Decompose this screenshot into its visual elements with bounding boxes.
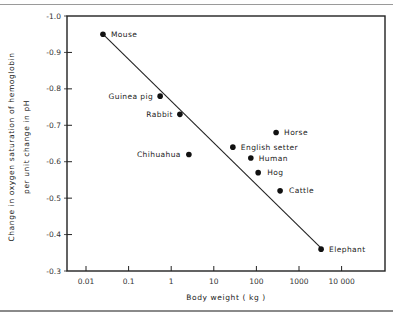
- point-label: Cattle: [289, 186, 314, 195]
- x-tick-label: 1000: [289, 277, 308, 286]
- point-label: Horse: [284, 128, 308, 137]
- point-marker: [157, 93, 163, 99]
- point-marker: [100, 31, 106, 37]
- x-tick-label: 0.1: [123, 277, 135, 286]
- point-label: Chihuahua: [137, 150, 181, 159]
- point-marker: [255, 170, 261, 176]
- y-tick-label: -0.9: [46, 48, 61, 57]
- point-marker: [318, 246, 324, 252]
- data-point: English setter: [230, 143, 298, 152]
- data-point: Human: [248, 154, 288, 163]
- point-label: Mouse: [111, 30, 137, 39]
- x-tick-label: 10: [209, 277, 219, 286]
- y-axis: -1.0-0.9-0.8-0.7-0.6-0.5-0.4-0.3: [46, 12, 72, 276]
- data-points: MouseGuinea pigRabbitChihuahuaEnglish se…: [100, 30, 365, 254]
- y-axis-label: Change in oxygen saturation of hemoglobi…: [7, 52, 31, 241]
- x-tick-label: 100: [249, 277, 264, 286]
- x-tick-label: 10 000: [328, 277, 354, 286]
- point-label: English setter: [241, 143, 299, 152]
- point-label: Hog: [267, 168, 283, 177]
- point-label: Human: [259, 154, 288, 163]
- y-tick-label: -0.4: [46, 230, 61, 239]
- point-label: Elephant: [329, 245, 365, 254]
- point-marker: [177, 112, 183, 118]
- y-tick-label: -0.5: [46, 194, 61, 203]
- data-point: Cattle: [277, 186, 314, 195]
- plot-frame: [67, 16, 385, 271]
- data-point: Rabbit: [146, 110, 182, 119]
- point-marker: [248, 155, 254, 161]
- x-tick-label: 0.01: [78, 277, 95, 286]
- plot-border: [67, 16, 385, 271]
- y-axis-label-line-1: Change in oxygen saturation of hemoglobi…: [7, 52, 16, 241]
- point-marker: [273, 130, 279, 136]
- data-point: Guinea pig: [109, 92, 163, 101]
- x-axis-label: Body weight ( kg ): [186, 293, 266, 302]
- y-tick-label: -0.8: [46, 84, 61, 93]
- x-tick-label: 1: [169, 277, 174, 286]
- point-marker: [277, 188, 283, 194]
- y-tick-label: -0.6: [46, 157, 61, 166]
- point-label: Guinea pig: [109, 92, 154, 101]
- x-axis: 0.010.1110100100010 000: [78, 266, 355, 286]
- data-point: Hog: [255, 168, 283, 177]
- y-axis-label-line-2: per unit change in pH: [22, 100, 31, 194]
- point-marker: [230, 144, 236, 150]
- data-point: Elephant: [318, 245, 365, 254]
- scatter-chart: -1.0-0.9-0.8-0.7-0.6-0.5-0.4-0.3 0.010.1…: [0, 0, 393, 313]
- data-point: Chihuahua: [137, 150, 192, 159]
- y-tick-label: -0.3: [46, 267, 61, 276]
- y-tick-label: -1.0: [46, 12, 61, 21]
- y-tick-label: -0.7: [46, 121, 61, 130]
- point-label: Rabbit: [146, 110, 173, 119]
- data-point: Horse: [273, 128, 308, 137]
- point-marker: [186, 152, 192, 158]
